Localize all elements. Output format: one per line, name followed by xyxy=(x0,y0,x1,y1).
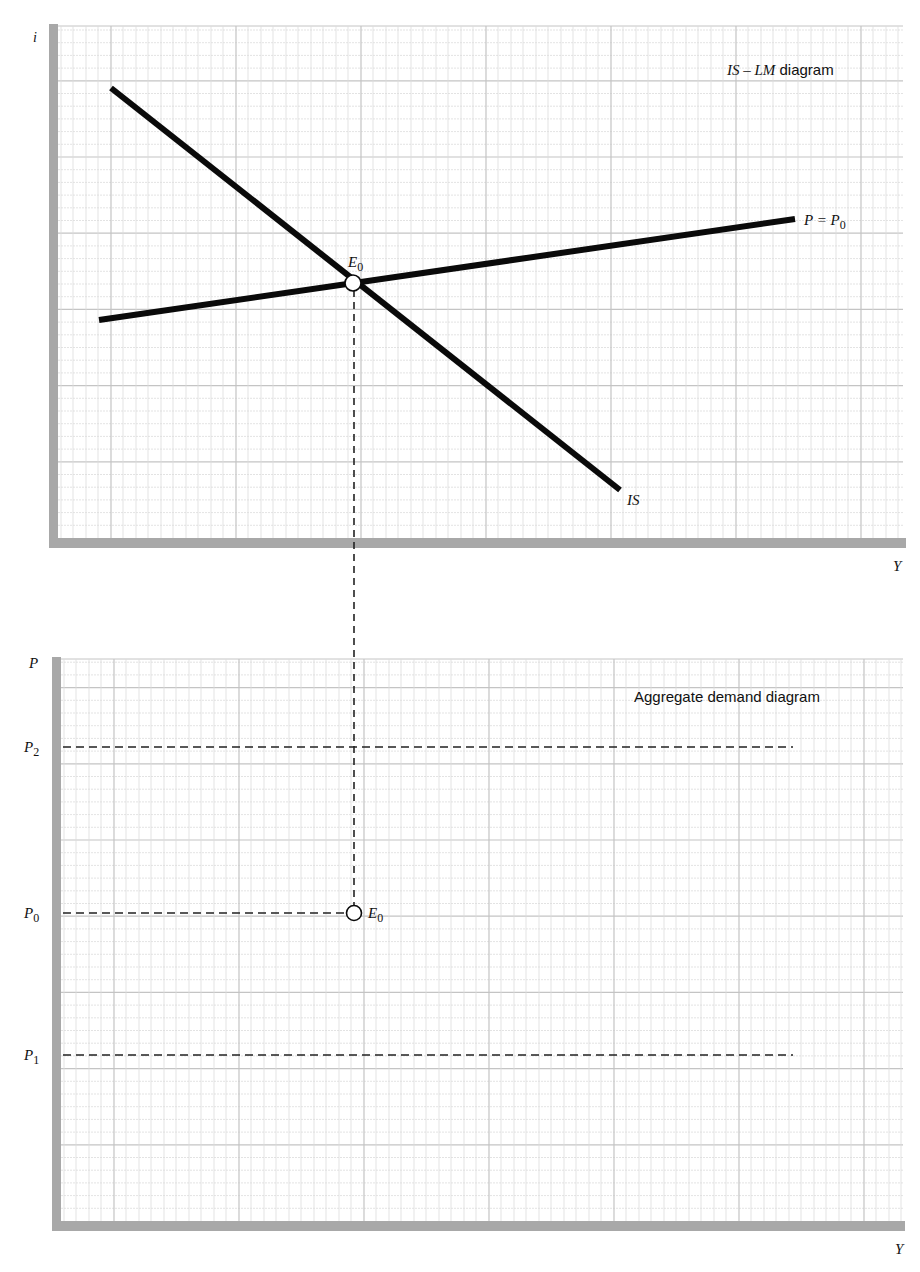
top-grid xyxy=(58,26,903,538)
is-curve xyxy=(111,88,620,490)
price-level-label-p2: P2 xyxy=(23,739,39,759)
diagram-canvas: i Y IS – LM diagram P = P0 IS E0 P Y Agg… xyxy=(0,0,920,1272)
top-y-axis-label: i xyxy=(33,30,37,45)
price-level-label-p0: P0 xyxy=(23,905,39,925)
bottom-y-axis-label: P xyxy=(28,655,38,671)
price-level-label-p1: P1 xyxy=(23,1047,39,1067)
e0-bottom-point xyxy=(347,906,362,921)
bottom-x-axis-label: Y xyxy=(895,1241,905,1257)
e0-bottom-label: E0 xyxy=(367,905,383,925)
top-x-axis xyxy=(49,538,906,548)
top-x-axis-label: Y xyxy=(893,558,903,574)
bottom-x-axis xyxy=(52,1221,905,1231)
bottom-panel-title: Aggregate demand diagram xyxy=(634,688,820,705)
e0-top-point xyxy=(345,275,361,291)
bottom-y-axis xyxy=(52,657,61,1231)
top-y-axis xyxy=(49,24,58,548)
lm-curve-label: P = P0 xyxy=(803,212,846,232)
bottom-grid xyxy=(61,659,903,1221)
is-curve-label: IS xyxy=(626,492,640,508)
top-panel-title: IS – LM diagram xyxy=(726,61,834,78)
lm-curve xyxy=(99,219,795,320)
